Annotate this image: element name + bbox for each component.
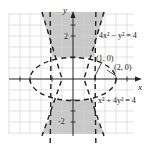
point-label-2-0: (2, 0) (114, 63, 132, 72)
leader-line-1-0 (95, 62, 102, 76)
x-axis-label: x (137, 82, 142, 92)
ellipse-equation-label: x² + 4y² = 4 (98, 96, 136, 105)
y-axis-label: y (62, 5, 67, 15)
y-tick-label-2: 2 (64, 32, 68, 41)
point-markers (95, 62, 116, 76)
inequality-graph: y x 2 -2 4x² − y² = 4 x² + 4y² = 4 (1, 0… (0, 0, 145, 144)
hyperbola-equation-label: 4x² − y² = 4 (99, 31, 137, 40)
point-label-1-0: (1, 0) (96, 54, 114, 63)
x-axis-arrow-icon (135, 77, 142, 82)
y-tick-label-neg2: -2 (58, 117, 65, 126)
